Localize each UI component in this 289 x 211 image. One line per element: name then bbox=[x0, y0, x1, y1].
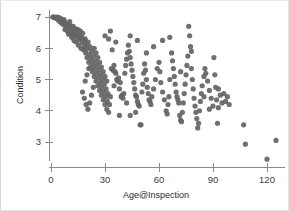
data-point bbox=[183, 72, 188, 77]
data-point bbox=[95, 55, 100, 60]
data-point bbox=[118, 80, 123, 85]
data-point bbox=[198, 99, 203, 104]
data-point bbox=[132, 86, 137, 91]
data-point bbox=[85, 39, 90, 44]
data-point bbox=[82, 96, 87, 101]
data-point bbox=[153, 77, 158, 82]
data-point bbox=[183, 82, 188, 87]
scatter-plot: 34567 0306090120 Age@Inspection Conditio… bbox=[1, 1, 289, 211]
data-point bbox=[127, 49, 132, 54]
data-point bbox=[194, 116, 199, 121]
data-point bbox=[108, 94, 113, 99]
data-point bbox=[211, 55, 216, 60]
data-point bbox=[120, 96, 125, 101]
data-point bbox=[186, 24, 191, 29]
data-point bbox=[157, 69, 162, 74]
data-point bbox=[97, 60, 102, 65]
data-point bbox=[83, 78, 88, 83]
data-point bbox=[148, 102, 153, 107]
data-point bbox=[188, 44, 193, 49]
data-point bbox=[144, 50, 149, 55]
data-point bbox=[128, 113, 133, 118]
data-point bbox=[128, 33, 133, 38]
data-point bbox=[179, 119, 184, 124]
data-point bbox=[113, 39, 118, 44]
x-tick-label: 90 bbox=[208, 174, 219, 185]
data-point bbox=[167, 35, 172, 40]
data-point bbox=[138, 122, 143, 127]
data-point bbox=[172, 74, 177, 79]
x-tick-label: 60 bbox=[154, 174, 165, 185]
data-point bbox=[133, 110, 138, 115]
data-point bbox=[87, 100, 92, 105]
data-point bbox=[151, 86, 156, 91]
data-point bbox=[102, 74, 107, 79]
data-point bbox=[145, 85, 150, 90]
data-point bbox=[112, 69, 117, 74]
y-tick-label: 6 bbox=[36, 43, 41, 54]
data-point bbox=[103, 86, 108, 91]
x-tick-label: 30 bbox=[100, 174, 111, 185]
y-tick-label: 5 bbox=[36, 74, 41, 85]
data-point bbox=[162, 97, 167, 102]
data-point bbox=[243, 142, 248, 147]
data-point bbox=[202, 66, 207, 71]
data-point bbox=[181, 100, 186, 105]
y-tick-label: 4 bbox=[36, 105, 41, 116]
data-point bbox=[104, 78, 109, 83]
data-point bbox=[203, 71, 208, 76]
data-point bbox=[196, 121, 201, 126]
data-point bbox=[80, 89, 85, 94]
data-point bbox=[85, 107, 90, 112]
data-point bbox=[169, 50, 174, 55]
x-tick-group: 0306090120 bbox=[48, 163, 275, 185]
data-point bbox=[215, 121, 220, 126]
data-point bbox=[107, 102, 112, 107]
data-point bbox=[128, 55, 133, 60]
data-point bbox=[158, 80, 163, 85]
data-point bbox=[86, 66, 91, 71]
data-point bbox=[106, 110, 111, 115]
data-point bbox=[140, 82, 145, 87]
x-tick-label: 0 bbox=[48, 174, 53, 185]
data-point bbox=[142, 61, 147, 66]
data-point bbox=[151, 44, 156, 49]
data-point bbox=[165, 111, 170, 116]
data-point bbox=[99, 64, 104, 69]
data-point bbox=[91, 85, 96, 90]
y-tick-group: 34567 bbox=[36, 11, 53, 147]
data-point bbox=[110, 47, 115, 52]
y-tick-label: 3 bbox=[36, 136, 41, 147]
data-point bbox=[117, 113, 122, 118]
data-point bbox=[130, 74, 135, 79]
data-point bbox=[273, 138, 278, 143]
data-point bbox=[101, 69, 106, 74]
data-point bbox=[225, 94, 230, 99]
data-point-group bbox=[50, 14, 278, 161]
data-point bbox=[84, 72, 89, 77]
data-point bbox=[180, 110, 185, 115]
data-point bbox=[111, 83, 116, 88]
data-point bbox=[92, 46, 97, 51]
data-point bbox=[160, 89, 165, 94]
data-point bbox=[176, 100, 181, 105]
data-point bbox=[173, 82, 178, 87]
data-point bbox=[139, 89, 144, 94]
data-point bbox=[135, 38, 140, 43]
data-point bbox=[149, 94, 154, 99]
data-point bbox=[201, 94, 206, 99]
data-point bbox=[227, 102, 232, 107]
data-point bbox=[166, 94, 171, 99]
data-point bbox=[167, 77, 172, 82]
data-point bbox=[197, 108, 202, 113]
data-point bbox=[178, 69, 183, 74]
data-point bbox=[190, 77, 195, 82]
data-point bbox=[123, 63, 128, 68]
data-point bbox=[129, 61, 134, 66]
data-point bbox=[122, 71, 127, 76]
data-point bbox=[207, 88, 212, 93]
data-point bbox=[124, 100, 129, 105]
data-point bbox=[241, 122, 246, 127]
data-point bbox=[93, 50, 98, 55]
data-point bbox=[156, 60, 161, 65]
